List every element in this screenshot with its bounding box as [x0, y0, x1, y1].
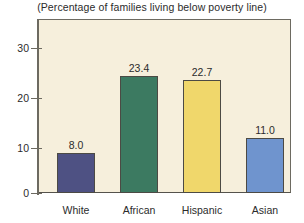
x-axis-category-labels: White African Hispanic Asian — [0, 204, 304, 223]
bar-african[interactable] — [120, 76, 158, 193]
bars-layer: 8.0 23.4 22.7 11.0 — [0, 0, 304, 223]
bar-white[interactable] — [57, 153, 95, 193]
bar-asian[interactable] — [246, 138, 284, 193]
bar-value-african: 23.4 — [119, 62, 159, 74]
bar-chart-figure: (Percentage of families living below pov… — [0, 0, 304, 223]
x-label-asian: Asian — [239, 204, 291, 216]
bar-hispanic[interactable] — [183, 80, 221, 193]
x-label-hispanic: Hispanic — [176, 204, 228, 216]
bar-value-white: 8.0 — [56, 139, 96, 151]
bar-value-asian: 11.0 — [245, 124, 285, 136]
bar-value-hispanic: 22.7 — [182, 66, 222, 78]
x-label-african: African — [113, 204, 165, 216]
x-label-white: White — [50, 204, 102, 216]
